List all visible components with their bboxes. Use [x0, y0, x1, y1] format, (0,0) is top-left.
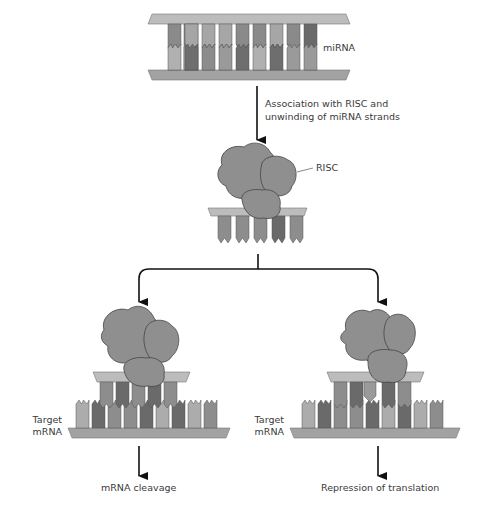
mirna-label: miRNA: [323, 42, 355, 54]
target-mrna-right-line2: mRNA: [238, 426, 284, 438]
mirna-duplex: [148, 14, 350, 80]
cleavage-complex: [68, 306, 230, 438]
risc-label: RISC: [316, 162, 338, 174]
outcome-cleavage: mRNA cleavage: [101, 482, 176, 494]
target-mrna-left-line1: Target: [18, 414, 62, 426]
step-label-line1: Association with RISC and: [265, 98, 388, 110]
step-label-line2: unwinding of miRNA strands: [265, 111, 400, 123]
target-mrna-right-line1: Target: [238, 414, 284, 426]
target-mrna-left-line2: mRNA: [18, 426, 62, 438]
risc-complex: [208, 143, 313, 243]
repression-complex: [290, 310, 460, 438]
outcome-repression: Repression of translation: [321, 482, 439, 494]
branch-arrows: [139, 254, 378, 302]
